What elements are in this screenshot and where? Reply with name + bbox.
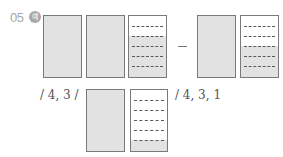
- whole-rectangle: [197, 15, 236, 78]
- shaded-region: [131, 140, 167, 151]
- problem-number: 05: [10, 10, 23, 25]
- divider-line: [132, 66, 163, 67]
- divider-line: [132, 26, 163, 27]
- fraction-rectangle-3-of-6: [240, 15, 279, 78]
- divider-line: [134, 110, 164, 111]
- fraction-rectangle-1-of-6: [130, 89, 168, 152]
- divider-line: [244, 66, 275, 67]
- divider-line: [244, 56, 275, 57]
- answer-right-text: / 4, 3, 1: [175, 88, 221, 102]
- whole-rectangle: [86, 15, 125, 78]
- divider-line: [134, 100, 164, 101]
- example-badge-icon: 예: [29, 11, 41, 23]
- fraction-rectangle-4-of-6: [128, 15, 167, 78]
- whole-rectangle: [43, 15, 82, 78]
- divider-line: [134, 130, 164, 131]
- divider-line: [132, 46, 163, 47]
- divider-line: [244, 46, 275, 47]
- divider-line: [132, 56, 163, 57]
- whole-rectangle: [86, 89, 125, 152]
- divider-line: [134, 120, 164, 121]
- shaded-region: [241, 46, 278, 77]
- divider-line: [132, 36, 163, 37]
- minus-sign: [178, 46, 187, 47]
- divider-line: [134, 140, 164, 141]
- answer-left-text: / 4, 3 /: [40, 88, 79, 102]
- divider-line: [244, 26, 275, 27]
- divider-line: [244, 36, 275, 37]
